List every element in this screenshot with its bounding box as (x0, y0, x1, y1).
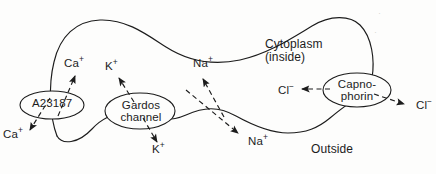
cytoplasm-region-label: Cytoplasm (inside) (265, 38, 323, 65)
calcium-inside-species: Ca (64, 57, 79, 69)
chloride-outside-label: Cl− (416, 99, 432, 112)
sodium-outside-label: Na+ (248, 135, 268, 148)
potassium-inside-label: K+ (105, 60, 118, 73)
potassium-inside-species: K (105, 60, 113, 72)
sodium-outside-species: Na (248, 135, 263, 147)
gardos-label-line1: Gardos (110, 99, 172, 111)
calcium-outside-label: Ca+ (3, 128, 23, 141)
scan-artifact-1: · (378, 8, 381, 18)
capnophorin-label: Capno- phorin (329, 78, 385, 103)
scan-artifact-2: · (374, 27, 377, 37)
calcium-outside-charge: + (18, 125, 23, 135)
calcium-inside-charge: + (79, 54, 84, 64)
chloride-inside-label: Cl− (278, 84, 294, 97)
chloride-inside-species: Cl (278, 84, 289, 96)
sodium-inside-label: Na+ (193, 57, 213, 70)
sodium-influx-arrow (203, 79, 224, 117)
outside-region-label: Outside (311, 143, 353, 156)
gardos-channel-label: Gardos channel (110, 99, 172, 124)
gardos-label-line2: channel (110, 111, 172, 123)
calcium-outside-species: Ca (3, 128, 18, 140)
cytoplasm-label-line1: Cytoplasm (265, 38, 323, 51)
capnophorin-label-line2: phorin (329, 90, 385, 102)
lower-membrane-curve (57, 98, 360, 142)
calcium-inside-label: Ca+ (64, 57, 84, 70)
membrane-outline (50, 18, 373, 142)
sodium-inside-species: Na (193, 57, 208, 69)
chloride-inside-charge: − (289, 81, 294, 91)
upper-membrane-curve (50, 18, 373, 136)
a23187-label-text: A23187 (32, 97, 72, 109)
cytoplasm-label-line2: (inside) (265, 51, 323, 64)
chloride-outside-species: Cl (416, 99, 427, 111)
sodium-arrows (186, 79, 238, 133)
potassium-inside-charge: + (113, 57, 118, 67)
sodium-inside-charge: + (208, 54, 213, 64)
a23187-label: A23187 (25, 97, 79, 110)
cell-membrane-transport-diagram: Cytoplasm (inside) Outside A23187 Gardos… (0, 0, 436, 174)
potassium-outside-label: K+ (152, 143, 165, 156)
potassium-outside-species: K (152, 143, 160, 155)
capnophorin-label-line1: Capno- (329, 78, 385, 90)
chloride-outside-charge: − (427, 96, 432, 106)
potassium-outside-charge: + (160, 140, 165, 150)
sodium-outside-charge: + (263, 132, 268, 142)
